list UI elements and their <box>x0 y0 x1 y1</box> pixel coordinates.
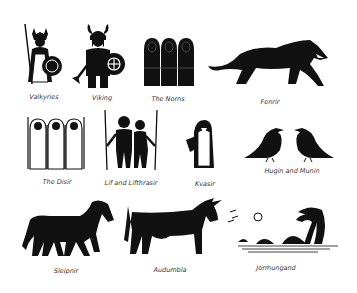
label-kvasir: Kvasir <box>195 180 215 188</box>
horse-icon <box>20 196 114 260</box>
couple-icon <box>102 108 160 172</box>
kvasir-icon <box>186 118 218 172</box>
sea-serpent-icon <box>218 200 348 256</box>
label-valkyries: Valkyries <box>29 93 58 101</box>
label-fenrir: Fenrir <box>260 98 279 106</box>
ravens-icon <box>244 124 334 164</box>
label-hugin-munin: Hugin and Munin <box>264 167 319 175</box>
label-viking: Viking <box>92 94 112 102</box>
viking-icon <box>72 20 128 90</box>
label-lif-lifthrasir: Lif and Lifthrasir <box>105 179 158 187</box>
disir-icon <box>26 115 88 171</box>
label-norns: The Norns <box>151 95 184 103</box>
cow-icon <box>122 196 222 258</box>
label-audumbla: Audumbla <box>153 266 186 274</box>
valkyrie-icon <box>22 22 64 90</box>
label-disir: The Disir <box>43 178 72 186</box>
norns-icon <box>142 36 198 88</box>
label-sleipnir: Sleipnir <box>54 267 78 275</box>
label-jormungand: Jormungand <box>256 264 296 272</box>
wolf-icon <box>206 36 336 88</box>
